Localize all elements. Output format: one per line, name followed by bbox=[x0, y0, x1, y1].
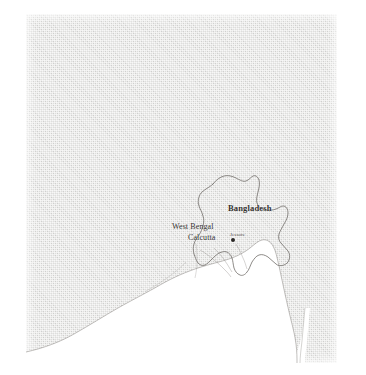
bay-of-bengal-water bbox=[26, 240, 297, 363]
coastal-inlet-water bbox=[297, 308, 310, 363]
city-marker-dot-icon bbox=[231, 238, 235, 242]
map-figure: Bangladesh West Bengal Calcutta Jessore bbox=[0, 0, 366, 375]
label-jessore: Jessore bbox=[230, 232, 245, 237]
label-bangladesh: Bangladesh bbox=[228, 204, 272, 213]
label-west-bengal: West Bengal bbox=[172, 223, 214, 231]
label-calcutta: Calcutta bbox=[188, 234, 215, 242]
map-vector-overlay bbox=[0, 0, 366, 375]
